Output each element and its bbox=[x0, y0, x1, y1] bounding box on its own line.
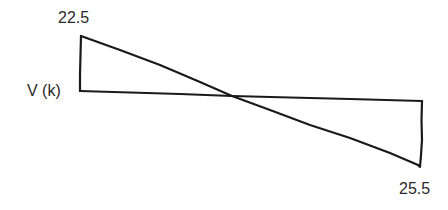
max-negative-shear-label: 25.5 bbox=[399, 181, 430, 197]
shear-diagram-drawing bbox=[0, 0, 448, 210]
shear-force-diagram: 22.5 V (k) 25.5 bbox=[0, 0, 448, 210]
shear-axis-label: V (k) bbox=[27, 83, 61, 99]
right-shear-edge bbox=[418, 101, 422, 167]
left-shear-edge bbox=[80, 36, 81, 91]
max-positive-shear-label: 22.5 bbox=[58, 10, 89, 26]
zero-baseline bbox=[80, 91, 422, 101]
